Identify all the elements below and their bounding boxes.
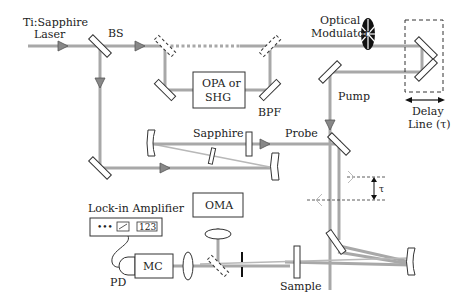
probe-label: Probe bbox=[285, 127, 318, 140]
tau-markers bbox=[307, 171, 387, 206]
pump-label: Pump bbox=[338, 90, 370, 103]
lens-oma bbox=[205, 229, 231, 239]
delay-label-1: Delay bbox=[412, 105, 444, 118]
lockin-dots: ••• bbox=[97, 222, 113, 232]
laser-label-2: Laser bbox=[34, 28, 66, 41]
lockin-label: Lock-in Amplifier bbox=[88, 202, 185, 215]
mc-label: MC bbox=[143, 260, 163, 273]
modulator-label-2: Modulator bbox=[311, 27, 370, 40]
modulator-label-1: Optical bbox=[320, 14, 361, 27]
delay-line bbox=[405, 20, 445, 103]
concave-mirror-3 bbox=[407, 248, 416, 275]
sample bbox=[294, 246, 300, 278]
bpf-filter bbox=[246, 132, 252, 156]
bs-label: BS bbox=[108, 27, 124, 40]
delay-label-2: Line (τ) bbox=[408, 118, 451, 131]
opa-label-1: OPA or bbox=[202, 77, 241, 90]
tau-label: τ bbox=[379, 184, 384, 194]
sample-label: Sample bbox=[280, 280, 322, 293]
pd-label: PD bbox=[110, 276, 126, 289]
bpf-label: BPF bbox=[258, 106, 281, 119]
sapphire-label: Sapphire bbox=[193, 127, 244, 140]
sapphire-crystal bbox=[208, 148, 215, 164]
concave-mirror-2 bbox=[271, 153, 280, 180]
lockin-display: 123 bbox=[139, 222, 156, 232]
lens-1 bbox=[183, 252, 193, 280]
opa-label-2: SHG bbox=[205, 91, 231, 104]
oma-label: OMA bbox=[205, 199, 234, 212]
pump-probe-diagram: Ti:Sapphire Laser BS OPA or SHG BPF Opti… bbox=[0, 0, 466, 307]
